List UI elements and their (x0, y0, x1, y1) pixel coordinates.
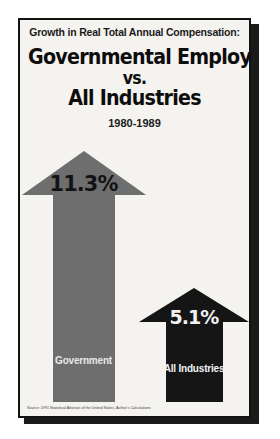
headline-line-1: Governmental Employees (28, 47, 241, 68)
poster-inner: Growth in Real Total Annual Compensation… (20, 20, 249, 416)
source-note: Source: 1991 Statistical Abstract of the… (27, 406, 243, 410)
bar-government-up-arrow: 11.3% Government (21, 151, 146, 402)
kicker-text: Growth in Real Total Annual Compensation… (20, 25, 249, 39)
bar-all-industries-up-arrow: 5.1% All Industries (139, 288, 249, 402)
bar-all-industries-label: All Industries (139, 363, 249, 374)
headline-divider (20, 42, 249, 43)
headline-line-3: All Industries (28, 88, 241, 109)
bar-all-industries-shaft (166, 322, 223, 402)
headline-block: Growth in Real Total Annual Compensation… (20, 25, 249, 129)
headline-line-2: vs. (28, 70, 241, 87)
bar-all-industries-value: 5.1% (142, 305, 247, 329)
date-range-label: 1980-1989 (20, 117, 249, 129)
bar-government-shaft (53, 195, 115, 402)
bar-government-value: 11.3% (24, 171, 143, 196)
chart-area: 11.3% Government 5.1% All Industries (20, 132, 249, 402)
bar-government-label: Government (21, 355, 146, 366)
poster-frame: Growth in Real Total Annual Compensation… (18, 18, 251, 418)
